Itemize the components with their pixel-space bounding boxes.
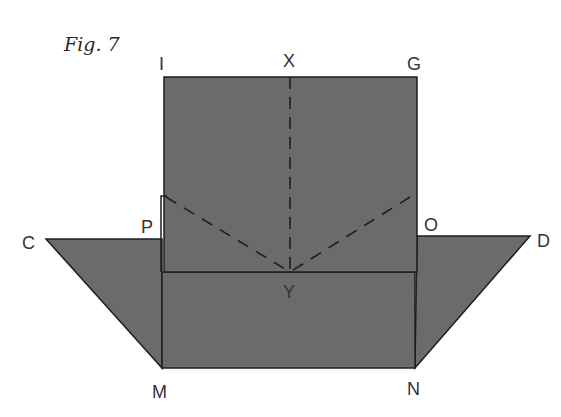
label-d: D [537,231,550,251]
label-m: M [152,382,167,402]
label-y: Y [283,282,295,302]
label-x: X [283,51,295,71]
label-n: N [407,379,420,399]
label-o: O [424,215,438,235]
triangle-left [46,239,162,368]
triangle-right [415,236,530,368]
label-c: C [22,233,35,253]
label-i: I [159,54,164,74]
figure-7-diagram: Fig. 7 I X G P O C D Y M N [0,0,561,417]
label-g: G [407,54,421,74]
figure-caption: Fig. 7 [63,33,121,55]
label-p: P [141,217,153,237]
